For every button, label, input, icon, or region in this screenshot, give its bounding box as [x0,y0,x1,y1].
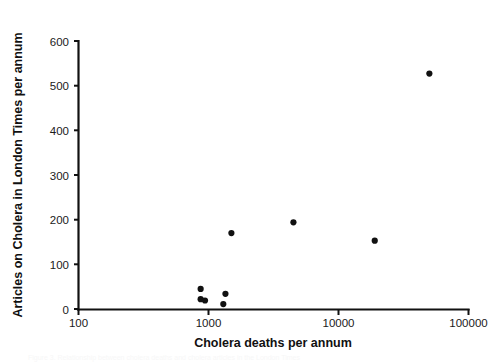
y-tick-label-400: 400 [50,125,69,137]
data-point [198,286,204,292]
figure-caption-partial: Figure 3. Relationship between cholera d… [0,353,496,362]
x-tick-label-100: 100 [69,317,88,329]
data-point [220,301,226,307]
x-tick-label-100000: 100000 [449,317,487,329]
x-tick-label-10000: 10000 [323,317,355,329]
data-points-layer [198,71,433,308]
scatter-plot: Articles on Cholera in London Times per … [0,0,496,362]
y-tick-label-200: 200 [50,214,69,226]
x-tick-label-1000: 1000 [196,317,222,329]
data-point [202,297,208,303]
y-tick-label-300: 300 [50,170,69,182]
data-point [372,238,378,244]
y-tick-label-0: 0 [63,304,69,316]
x-axis-tick-labels: 100 1000 10000 100000 [69,317,488,329]
data-point [222,291,228,297]
y-axis-tick-labels: 600 500 400 300 200 100 0 [50,36,69,316]
y-axis-title: Articles on Cholera in London Times per … [11,32,25,317]
x-axis-title: Cholera deaths per annum [194,336,352,350]
data-point [426,71,432,77]
y-tick-label-100: 100 [50,259,69,271]
y-tick-label-600: 600 [50,36,69,48]
data-point [228,230,234,236]
y-tick-label-500: 500 [50,80,69,92]
figure-container: Articles on Cholera in London Times per … [0,0,496,362]
data-point [290,219,296,225]
